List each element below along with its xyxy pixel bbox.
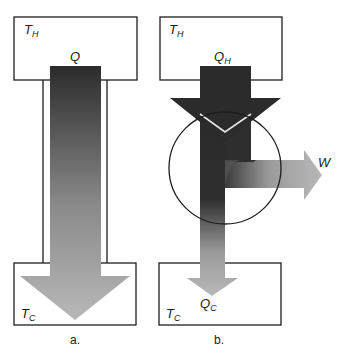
heat-engine-diagram: TH Q TC a. TH QH W QC TC b. <box>0 0 343 350</box>
heat-flow-label: Q <box>70 49 80 64</box>
caption-a: a. <box>70 333 80 347</box>
heat-flow-arrow <box>20 66 130 320</box>
caption-b: b. <box>214 333 224 347</box>
diagram-a: TH Q TC a. <box>14 17 137 347</box>
diagram-b: TH QH W QC TC b. <box>159 17 332 347</box>
work-label: W <box>318 155 332 170</box>
